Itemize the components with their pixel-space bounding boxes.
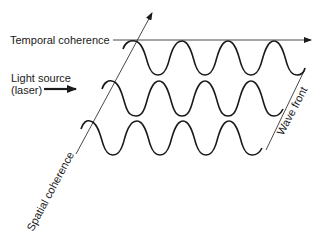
laser-label: (laser) [11,84,42,96]
wave-front-label: Wave front [274,85,309,137]
wave-row-2 [102,81,283,116]
spatial-coherence-label: Spatial coherence [24,150,76,233]
wave-row-3 [81,121,262,155]
temporal-coherence-label: Temporal coherence [10,34,110,46]
light-source-label: Light source [11,72,71,84]
wave-row-1 [123,41,305,75]
coherence-diagram: Temporal coherence Light source (laser) … [0,0,323,247]
diagram-canvas: Temporal coherence Light source (laser) … [0,0,323,247]
